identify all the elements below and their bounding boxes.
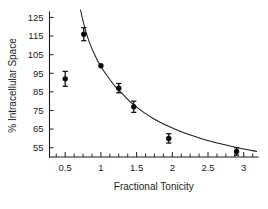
- x-tick-label: 1: [98, 162, 103, 173]
- intracellular-space-vs-tonicity-chart: 1251151059585756555 0.511.522.53 Fractio…: [0, 0, 268, 209]
- x-axis-tick-labels: 0.511.522.53: [59, 162, 247, 173]
- y-tick-label: 55: [33, 142, 44, 153]
- y-axis-tick-marks: [50, 17, 54, 147]
- x-tick-label: 2: [170, 162, 175, 173]
- y-tick-label: 65: [33, 123, 44, 134]
- data-point: [98, 63, 103, 68]
- data-point: [166, 134, 171, 143]
- fit-curve: [81, 10, 257, 151]
- data-point-marker: [81, 31, 86, 36]
- data-point-marker: [98, 63, 103, 68]
- y-axis-title: % Intracellular Space: [7, 38, 18, 133]
- x-tick-label: 1.5: [130, 162, 143, 173]
- x-tick-label: 0.5: [59, 162, 72, 173]
- data-point-marker: [116, 85, 121, 90]
- data-point-marker: [234, 149, 239, 154]
- y-tick-label: 105: [28, 49, 44, 60]
- data-point: [63, 71, 68, 86]
- y-tick-label: 115: [28, 30, 43, 41]
- x-tick-label: 2.5: [201, 162, 214, 173]
- y-tick-label: 125: [28, 12, 44, 23]
- y-tick-label: 85: [33, 86, 44, 97]
- data-point-marker: [166, 136, 171, 141]
- data-point-marker: [131, 104, 136, 109]
- chart-figure: 1251151059585756555 0.511.522.53 Fractio…: [0, 0, 268, 209]
- y-axis-tick-labels: 1251151059585756555: [28, 12, 44, 153]
- y-tick-label: 75: [33, 105, 44, 116]
- data-point-series: [63, 28, 240, 155]
- x-axis-title: Fractional Tonicity: [114, 181, 194, 192]
- x-tick-label: 3: [241, 162, 246, 173]
- data-point-marker: [63, 76, 68, 81]
- y-tick-label: 95: [33, 68, 44, 79]
